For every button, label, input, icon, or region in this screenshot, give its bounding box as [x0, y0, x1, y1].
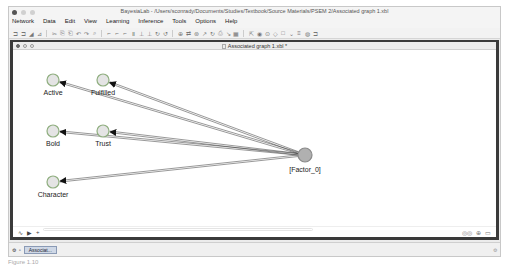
document-icon: [222, 44, 226, 49]
task-bar: ⚙ ▫ Associat... ⚙: [9, 242, 500, 256]
cut-icon[interactable]: ✂: [51, 30, 57, 37]
horizontal-scrollbar[interactable]: [43, 228, 313, 231]
arc-Factor_0-Fulfilled[interactable]: [110, 82, 299, 152]
arc-add-icon[interactable]: ⇄: [185, 30, 191, 37]
settings-icon[interactable]: ⚙: [493, 247, 497, 253]
graph-canvas[interactable]: ActiveFulfilledBoldTrustCharacter[Factor…: [13, 50, 496, 226]
node-label-character: Character: [38, 191, 69, 198]
node-label-factor_0: [Factor_0]: [289, 166, 321, 173]
undo-icon[interactable]: ↶: [75, 30, 81, 37]
menu-network[interactable]: Network: [12, 18, 34, 28]
new-icon[interactable]: ⊐: [12, 30, 18, 37]
menu-options[interactable]: Options: [195, 18, 216, 28]
validation-mode-icon[interactable]: ▶: [27, 229, 32, 236]
node-trust[interactable]: [97, 125, 109, 137]
delete-icon[interactable]: ↘: [225, 30, 231, 37]
node-character[interactable]: [47, 176, 59, 188]
gear-icon[interactable]: ⚙: [12, 247, 16, 253]
document-small-icon: ▫: [19, 247, 21, 253]
arc-icon[interactable]: ⌐: [114, 30, 120, 36]
menu-bar: NetworkDataEditViewLearningInferenceTool…: [9, 18, 500, 28]
arc-Factor_0-Character[interactable]: [60, 157, 298, 183]
monitor-icon[interactable]: ⊐: [312, 30, 318, 37]
node-factor_0[interactable]: [298, 148, 312, 162]
document-title-bar: Associated graph 1.xbl *: [13, 42, 496, 50]
link-icon[interactable]: ↻: [209, 30, 215, 37]
paste-icon[interactable]: ⎗: [67, 30, 73, 37]
redo-icon[interactable]: ↷: [83, 30, 89, 37]
zoom-icon[interactable]: ◎◎: [462, 229, 472, 236]
filter-icon[interactable]: ⎙: [217, 30, 223, 37]
toolbar-separator: [101, 30, 102, 37]
application-window: BayesiaLab - /Users/sconrady/Documents/S…: [8, 6, 501, 257]
pointer-icon[interactable]: ⇱: [248, 30, 254, 37]
menu-learning[interactable]: Learning: [106, 18, 129, 28]
node-label-fulfilled: Fulfilled: [91, 89, 115, 96]
node-add-icon[interactable]: ⊛: [193, 30, 199, 37]
node-bold[interactable]: [47, 125, 59, 137]
graph-mode-icon[interactable]: ∿: [18, 229, 23, 236]
node-circle-icon[interactable]: ◉: [256, 30, 262, 37]
table-icon[interactable]: ≡: [296, 30, 302, 36]
node-active[interactable]: [47, 74, 59, 86]
mode-icons: ∿▶+: [18, 229, 40, 236]
title-bar: BayesiaLab - /Users/sconrady/Documents/S…: [9, 7, 500, 18]
align-icon[interactable]: ⊥: [138, 30, 144, 37]
node-label-bold: Bold: [46, 140, 60, 147]
open-icon[interactable]: ⊐: [20, 30, 26, 37]
node-fulfilled[interactable]: [97, 74, 109, 86]
rotate-icon[interactable]: ↻: [154, 30, 160, 37]
figure-caption: Figure 1.10: [8, 259, 38, 265]
menu-view[interactable]: View: [84, 18, 97, 28]
menu-edit[interactable]: Edit: [65, 18, 75, 28]
graph-svg: [13, 50, 496, 226]
arc-icon[interactable]: ⌐: [106, 30, 112, 36]
arc-arrowhead: [60, 156, 298, 182]
toolbar: ⊐⊐◢⊿✂⎘⎗↶↷⌕⌐⌐⌐Ⅱ⊥⊥↻↺⊕⇄⊛↗↻⎙↘▦⇱◉⊙◇□⌄≡◍⊐: [9, 28, 500, 39]
lock-icon[interactable]: ⊕: [476, 229, 481, 236]
decision-icon[interactable]: ◇: [272, 30, 278, 37]
rotate-icon[interactable]: ↺: [162, 30, 168, 37]
node-label-trust: Trust: [95, 140, 111, 147]
find-icon[interactable]: ⌕: [91, 30, 97, 37]
menu-help[interactable]: Help: [225, 18, 237, 28]
note-icon[interactable]: ⌄: [288, 30, 294, 37]
align-icon[interactable]: ⊥: [146, 30, 152, 37]
utility-icon[interactable]: □: [280, 30, 286, 36]
node-label-active: Active: [43, 89, 62, 96]
menu-tools[interactable]: Tools: [172, 18, 186, 28]
add-icon[interactable]: +: [36, 229, 40, 235]
wand-icon[interactable]: ↗: [201, 30, 207, 37]
task-button-associated-graph[interactable]: Associat...: [24, 246, 57, 254]
window-title: BayesiaLab - /Users/sconrady/Documents/S…: [9, 8, 500, 14]
align-icon[interactable]: Ⅱ: [130, 30, 136, 37]
view-icons: ◎◎⊕▭: [462, 229, 491, 236]
document-window-frame: Associated graph 1.xbl * ActiveFulfilled…: [10, 40, 499, 240]
window-icon[interactable]: ▭: [485, 229, 491, 236]
document-status-bar: ∿▶+ ◎◎⊕▭: [13, 226, 496, 237]
node-icon[interactable]: ⊕: [177, 30, 183, 37]
constraint-icon[interactable]: ⊙: [264, 30, 270, 37]
toolbar-separator: [46, 30, 47, 37]
menu-inference[interactable]: Inference: [138, 18, 163, 28]
save-icon[interactable]: ◢: [28, 30, 34, 37]
toolbar-separator: [243, 30, 244, 37]
document-title: Associated graph 1.xbl *: [13, 42, 496, 50]
copy-icon[interactable]: ⎘: [59, 30, 65, 37]
grid-icon[interactable]: ▦: [233, 30, 239, 37]
globe-icon[interactable]: ◍: [304, 30, 310, 37]
menu-data[interactable]: Data: [43, 18, 56, 28]
document-title-text: Associated graph 1.xbl *: [228, 43, 287, 49]
toolbar-separator: [172, 30, 173, 37]
arc-icon[interactable]: ⌐: [122, 30, 128, 36]
print-icon[interactable]: ⊿: [36, 30, 42, 37]
arc-Factor_0-Character[interactable]: [60, 155, 298, 181]
document-window: Associated graph 1.xbl * ActiveFulfilled…: [13, 42, 496, 237]
